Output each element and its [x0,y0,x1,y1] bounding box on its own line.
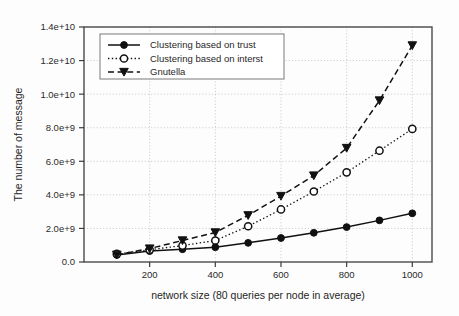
marker-0-9 [409,210,416,217]
series-line-0 [117,213,412,255]
marker-1-9 [409,125,416,132]
y-axis: 0.02.0e+94.0e+96.0e+98.0e+91.0e+101.2e+1… [12,21,84,267]
marker-1-5 [277,206,284,213]
marker-0-5 [278,235,285,242]
x-tick-label-2: 600 [273,269,289,280]
marker-legend-0-legend [121,42,128,49]
legend-label-0: Clustering based on trust [150,39,256,50]
x-tick-label-0: 200 [142,269,158,280]
marker-1-6 [310,188,317,195]
x-tick-label-4: 1000 [402,269,423,280]
legend-label-1: Clustering based on interst [150,53,263,64]
marker-2-4 [244,212,253,220]
y-tick-label-4: 8.0e+9 [46,122,75,133]
x-tick-label-1: 400 [207,269,223,280]
marker-2-5 [277,192,286,200]
y-tick-label-1: 2.0e+9 [46,223,75,234]
chart-figure: 0.02.0e+94.0e+96.0e+98.0e+91.0e+101.2e+1… [0,0,459,316]
legend-label-2: Gnutella [150,66,186,77]
y-tick-label-2: 4.0e+9 [46,189,75,200]
series-line-1 [117,129,412,254]
marker-2-8 [375,97,384,105]
series-1 [113,125,416,257]
y-tick-label-6: 1.2e+10 [40,55,75,66]
marker-0-7 [343,224,350,231]
marker-1-3 [212,237,219,244]
y-axis-title: The number of message [12,87,24,201]
marker-1-8 [376,147,383,154]
x-axis: 2004006008001000network size (80 queries… [142,262,423,301]
marker-1-4 [245,223,252,230]
y-tick-label-5: 1.0e+10 [40,89,75,100]
marker-legend-1-legend [120,55,127,62]
y-tick-label-7: 1.4e+10 [40,21,75,32]
y-tick-label-0: 0.0 [62,256,75,267]
series-0 [113,210,415,258]
chart-canvas: 0.02.0e+94.0e+96.0e+98.0e+91.0e+101.2e+1… [0,0,459,316]
marker-2-9 [408,42,417,50]
x-tick-label-3: 800 [339,269,355,280]
y-tick-label-3: 6.0e+9 [46,156,75,167]
marker-1-7 [343,169,350,176]
marker-0-6 [310,229,317,236]
marker-2-6 [310,172,319,180]
marker-0-8 [376,217,383,224]
x-axis-title: network size (80 queries per node in ave… [151,289,365,301]
marker-0-4 [245,239,252,246]
legend: Clustering based on trustClustering base… [100,34,284,79]
